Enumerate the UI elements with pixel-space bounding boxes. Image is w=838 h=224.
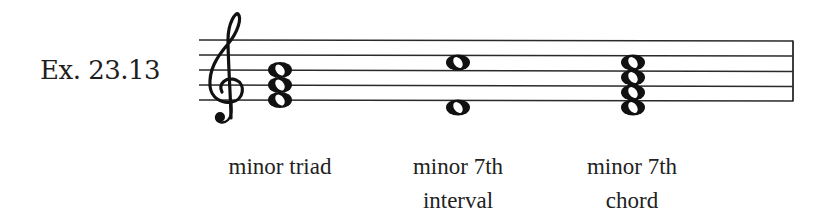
chord-minor-triad <box>268 62 292 108</box>
caption-minor-7th-chord-line1: minor 7th <box>557 154 707 180</box>
chord-minor-7th-chord <box>621 55 645 116</box>
caption-minor-7th-chord-line2: chord <box>557 188 707 214</box>
treble-clef-icon <box>210 14 242 123</box>
notehead-E4 <box>268 92 292 108</box>
notehead-C5 <box>446 55 470 71</box>
caption-minor-7th-interval-line1: minor 7th <box>383 154 533 180</box>
notehead-C5 <box>621 55 645 71</box>
notehead-D4 <box>446 100 470 116</box>
notehead-D4 <box>621 100 645 116</box>
caption-minor-7th-interval: minor 7th interval <box>383 154 533 214</box>
treble-clef-dot-icon <box>215 112 225 122</box>
notehead-B4 <box>268 62 292 78</box>
notehead-F4 <box>621 85 645 101</box>
caption-minor-7th-interval-line2: interval <box>383 188 533 214</box>
caption-minor-triad: minor triad <box>205 154 355 180</box>
notehead-A4 <box>621 70 645 86</box>
caption-minor-7th-chord: minor 7th chord <box>557 154 707 214</box>
notehead-G4 <box>268 77 292 93</box>
caption-minor-triad-line1: minor triad <box>205 154 355 180</box>
